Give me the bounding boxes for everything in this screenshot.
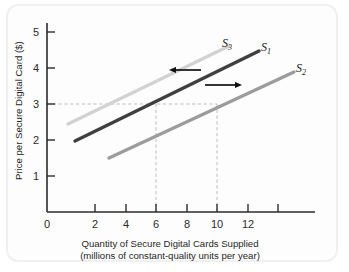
y-tick-label-4: 4 xyxy=(33,62,39,74)
supply-curve-chart: S3 S1 S2 1 2 3 4 5 xyxy=(0,0,349,272)
x-axis-title-line2: (millions of constant-quality units per … xyxy=(80,250,260,261)
x-tick-label-4: 4 xyxy=(123,218,129,230)
axes xyxy=(47,23,315,212)
y-tick-label-5: 5 xyxy=(33,26,39,38)
x-axis-title-line1: Quantity of Secure Digital Cards Supplie… xyxy=(81,238,258,249)
x-tick-label-2: 2 xyxy=(92,218,98,230)
x-tick-label-8: 8 xyxy=(184,218,190,230)
curve-label-s2: S2 xyxy=(296,61,306,77)
supply-curve-s1 xyxy=(75,51,259,141)
x-tick-label-12: 12 xyxy=(242,218,254,230)
y-axis-ticks: 1 2 3 4 5 xyxy=(33,26,55,182)
chart-figure: S3 S1 S2 1 2 3 4 5 xyxy=(0,0,349,272)
curve-label-s1: S1 xyxy=(261,40,271,56)
x-tick-label-10: 10 xyxy=(211,218,223,230)
supply-curve-s2 xyxy=(109,72,294,158)
x-axis-ticks: 0 2 4 6 8 10 12 xyxy=(44,204,278,230)
curve-label-s3: S3 xyxy=(222,36,232,52)
y-tick-label-1: 1 xyxy=(33,170,39,182)
y-tick-label-3: 3 xyxy=(33,98,39,110)
y-tick-label-2: 2 xyxy=(33,134,39,146)
y-axis-title: Price per Secure Digital Card ($) xyxy=(13,41,24,180)
x-tick-label-0: 0 xyxy=(44,218,50,230)
x-tick-label-6: 6 xyxy=(153,218,159,230)
supply-curves xyxy=(68,46,294,158)
